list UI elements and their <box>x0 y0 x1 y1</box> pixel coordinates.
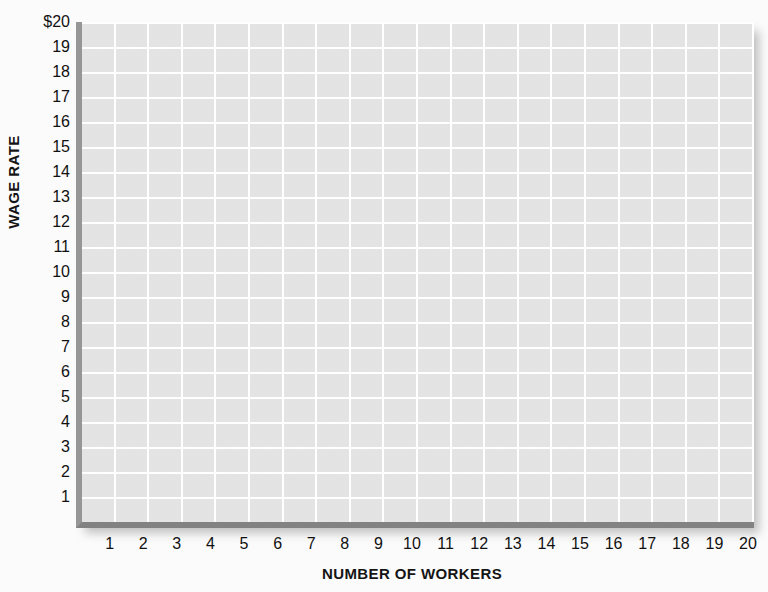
y-axis-tick-label: 9 <box>20 289 70 305</box>
y-axis-tick-label: 2 <box>20 464 70 480</box>
x-axis-tick-label-group: 1234567891011121314151617181920 <box>76 534 748 558</box>
y-axis-tick-label: 13 <box>20 189 70 205</box>
y-axis-tick-label: 8 <box>20 314 70 330</box>
grid-surface <box>82 22 754 522</box>
y-axis-tick-label: 3 <box>20 439 70 455</box>
x-axis-tick-label: 20 <box>728 534 768 554</box>
y-axis-tick-label: 11 <box>20 239 70 255</box>
y-axis-tick-label: 18 <box>20 64 70 80</box>
y-axis-tick-label: 5 <box>20 389 70 405</box>
y-axis-tick-label: 12 <box>20 214 70 230</box>
y-axis-tick-label: 1 <box>20 489 70 505</box>
y-axis-tick-label: 4 <box>20 414 70 430</box>
plot-area <box>76 22 754 528</box>
y-axis-tick-label: 6 <box>20 364 70 380</box>
y-axis-tick-label: $20 <box>20 14 70 30</box>
y-axis-tick-label: 19 <box>20 39 70 55</box>
x-axis-title: NUMBER OF WORKERS <box>76 565 748 582</box>
y-axis-tick-label: 16 <box>20 114 70 130</box>
y-axis-tick-label: 10 <box>20 264 70 280</box>
y-axis-tick-label: 7 <box>20 339 70 355</box>
y-axis-tick-label-group: $2019181716151413121110987654321 <box>20 22 70 522</box>
y-axis-tick-label: 15 <box>20 139 70 155</box>
y-axis-tick-label: 17 <box>20 89 70 105</box>
y-axis-tick-label: 14 <box>20 164 70 180</box>
